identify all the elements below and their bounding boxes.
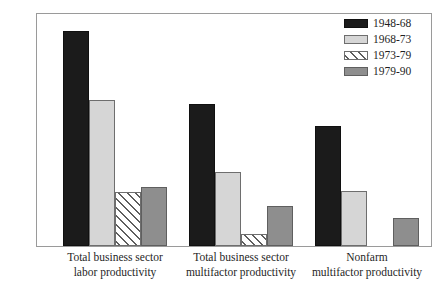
legend-label: 1979-90	[373, 65, 411, 78]
bar-1968-73-1	[89, 100, 115, 246]
bar-1968-73-2	[215, 172, 241, 246]
x-axis-label-line: Nonfarm	[297, 250, 437, 265]
bar-group	[63, 14, 187, 246]
legend-item-1968-73: 1968-73	[344, 32, 430, 46]
bar-1979-90-2	[267, 206, 293, 246]
bar-group	[189, 14, 313, 246]
x-axis-label-line: multifactor productivity	[297, 265, 437, 280]
x-axis-label-line: multifactor productivity	[171, 265, 311, 280]
legend-item-1948-68: 1948-68	[344, 16, 430, 30]
bar-1979-90-1	[141, 187, 167, 246]
bar-1979-90-3	[393, 218, 419, 247]
legend-swatch-light-gray	[344, 35, 368, 44]
legend-swatch-diagonal-hatch	[344, 51, 368, 60]
bar-chart: 00.51.01.52.02.53.03.5 Total business se…	[0, 0, 442, 292]
x-axis-label-line: Total business sector	[171, 250, 311, 265]
x-axis-category-label: Nonfarmmultifactor productivity	[297, 250, 437, 280]
legend-item-1973-79: 1973-79	[344, 48, 430, 62]
x-axis-labels: Total business sectorlabor productivityT…	[37, 250, 431, 292]
legend-label: 1973-79	[373, 49, 411, 62]
legend: 1948-681968-731973-791979-90	[344, 16, 430, 80]
x-axis-label-line: labor productivity	[45, 265, 185, 280]
bar-1968-73-3	[341, 191, 367, 246]
x-axis-category-label: Total business sectorlabor productivity	[45, 250, 185, 280]
x-axis-label-line: Total business sector	[45, 250, 185, 265]
bar-1973-79-1	[115, 192, 141, 246]
legend-item-1979-90: 1979-90	[344, 64, 430, 78]
legend-label: 1968-73	[373, 33, 411, 46]
bar-1973-79-2	[241, 234, 267, 246]
bar-1948-68-3	[315, 126, 341, 246]
bar-1948-68-1	[63, 31, 89, 246]
legend-swatch-solid-black	[344, 19, 368, 28]
y-axis: 00.51.01.52.02.53.03.5	[0, 0, 36, 292]
x-axis-category-label: Total business sectormultifactor product…	[171, 250, 311, 280]
legend-label: 1948-68	[373, 17, 411, 30]
legend-swatch-medium-gray	[344, 67, 368, 76]
bar-1948-68-2	[189, 104, 215, 247]
